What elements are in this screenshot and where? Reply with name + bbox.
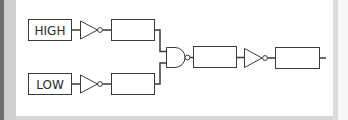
nand-gate-icon bbox=[167, 48, 186, 68]
logic-circuit-diagram: HIGH LOW bbox=[0, 0, 348, 120]
inversion-bubble-icon bbox=[185, 55, 190, 60]
wire-to-nand-bottom bbox=[155, 63, 167, 84]
box-top bbox=[112, 20, 155, 41]
nand-gate bbox=[167, 48, 194, 68]
wire-to-nand-top bbox=[155, 30, 167, 52]
box-middle bbox=[194, 47, 237, 68]
inversion-bubble-icon bbox=[263, 56, 268, 61]
box-bottom bbox=[112, 74, 155, 95]
not-gate-icon bbox=[245, 49, 263, 68]
inversion-bubble-icon bbox=[98, 82, 103, 87]
inversion-bubble-icon bbox=[98, 28, 103, 33]
input-label-high: HIGH bbox=[35, 24, 66, 38]
not-gate-icon bbox=[81, 21, 98, 39]
box-output bbox=[276, 48, 320, 69]
not-gate-icon bbox=[81, 75, 98, 93]
top-branch: HIGH bbox=[29, 20, 167, 52]
bottom-branch: LOW bbox=[29, 63, 167, 95]
input-label-low: LOW bbox=[36, 78, 64, 92]
